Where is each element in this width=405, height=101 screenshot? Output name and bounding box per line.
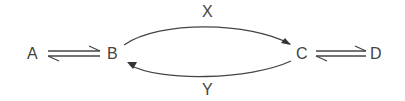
arrow-x-curve — [124, 27, 290, 45]
equilibrium-arrow-c-d — [316, 46, 366, 61]
edge-label-x: X — [202, 4, 213, 20]
node-c: C — [296, 46, 308, 62]
node-d: D — [370, 46, 382, 62]
arrowhead-x-icon — [281, 38, 291, 45]
node-b: B — [107, 46, 118, 62]
arrow-y-curve — [130, 61, 291, 77]
node-a: A — [27, 46, 38, 62]
edge-label-y: Y — [202, 82, 213, 98]
equilibrium-arrow-a-b — [48, 46, 100, 61]
